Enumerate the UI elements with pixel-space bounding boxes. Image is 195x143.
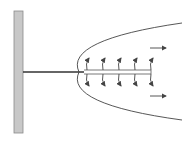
diagram-canvas [0,0,195,143]
field-arrow-down [102,74,105,86]
field-arrow-up [118,58,121,70]
field-arrow-down [118,74,121,86]
wall-plate [14,11,23,133]
field-arrow-up [102,58,105,70]
diagram-svg [0,0,195,143]
field-arrows [86,58,153,86]
field-arrow-up [86,58,89,70]
field-arrow-down [134,74,137,86]
parabola-boundary [77,23,182,120]
field-arrow-up [150,58,153,70]
field-arrow-up [134,58,137,70]
field-arrow-down [150,74,153,86]
field-arrow-down [86,74,89,86]
